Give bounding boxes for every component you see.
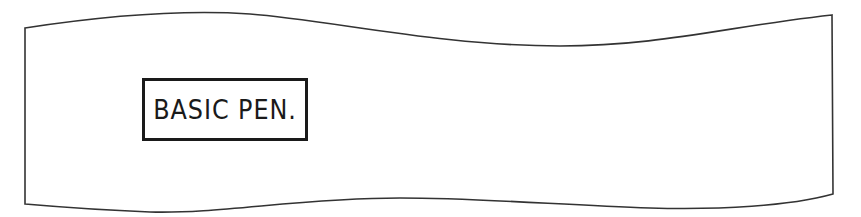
wavy-ribbon-panel xyxy=(0,0,861,217)
label-box: BASIC PEN. xyxy=(142,78,308,141)
label-text: BASIC PEN. xyxy=(153,95,297,125)
